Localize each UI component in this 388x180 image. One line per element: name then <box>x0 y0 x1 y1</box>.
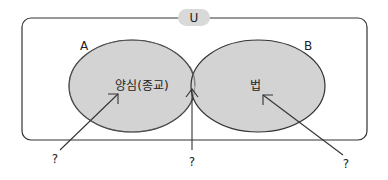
set-b-content: 법 <box>250 79 261 93</box>
set-b-label: B <box>304 39 312 53</box>
question-b: ? <box>343 157 349 171</box>
question-intersection: ? <box>189 155 195 169</box>
set-a-content: 양심(종교) <box>115 79 168 93</box>
universe-label: U <box>190 11 199 25</box>
set-a-label: A <box>80 39 89 53</box>
question-a: ? <box>52 152 58 166</box>
venn-svg: U A B 양심(종교) 법 ? ? ? <box>0 0 388 180</box>
venn-diagram: U A B 양심(종교) 법 ? ? ? <box>0 0 388 180</box>
